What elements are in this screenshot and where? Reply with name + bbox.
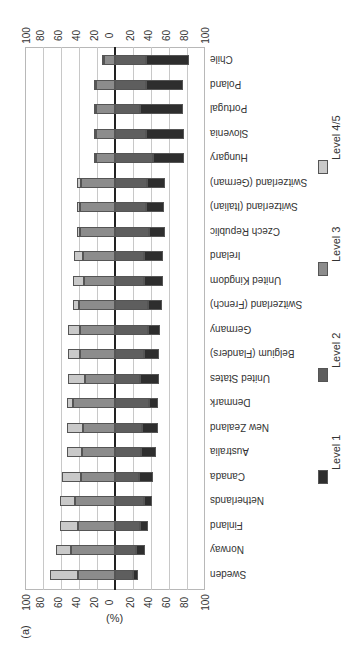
country-label: United States — [210, 373, 330, 384]
level-4-5-segment — [94, 80, 97, 90]
legend-swatch — [318, 160, 328, 174]
axis-tick-label: 60 — [53, 30, 64, 41]
level-4-5-segment — [77, 202, 81, 212]
axis-tick-label: 40 — [71, 30, 82, 41]
level-2-segment — [115, 398, 149, 408]
axis-tick-label: 60 — [161, 597, 172, 608]
level-2-segment — [115, 496, 144, 506]
level-3-segment — [82, 447, 115, 457]
level-4-5-segment — [68, 349, 81, 359]
country-label: Switzerland (German) — [210, 177, 330, 188]
level-3-segment — [96, 129, 115, 139]
axis-tick-label: 60 — [53, 597, 64, 608]
axis-tick-label: 20 — [89, 597, 100, 608]
level-1-segment — [148, 325, 160, 335]
level-2-segment — [115, 202, 146, 212]
country-label: Belgium (Flanders) — [210, 348, 330, 359]
country-label: Australia — [210, 446, 330, 457]
legend-label: Level 4/5 — [330, 115, 342, 160]
level-4-5-segment — [77, 178, 81, 188]
level-4-5-segment — [73, 300, 79, 310]
legend-swatch — [318, 368, 328, 382]
country-label: Czech Republic — [210, 226, 330, 237]
level-4-5-segment — [94, 129, 97, 139]
axis-tick-label: 100 — [199, 27, 210, 44]
level-1-segment — [144, 349, 159, 359]
level-2-segment — [115, 325, 148, 335]
level-2-segment — [115, 349, 144, 359]
axis-tick-label: 80 — [179, 30, 190, 41]
level-1-segment — [147, 178, 165, 188]
level-3-segment — [96, 80, 115, 90]
level-2-segment — [115, 227, 149, 237]
level-2-segment — [115, 251, 144, 261]
legend-swatch — [318, 262, 328, 276]
level-3-segment — [80, 325, 115, 335]
legend-label: Level 1 — [330, 435, 342, 470]
level-1-segment — [146, 80, 183, 90]
country-label: Germany — [210, 324, 330, 335]
country-label: Finland — [210, 520, 330, 531]
axis-tick-label: 20 — [89, 30, 100, 41]
level-3-segment — [83, 423, 115, 433]
level-2-segment — [115, 178, 147, 188]
literacy-levels-chart: 10080604020020406080100 1008060402002040… — [0, 0, 342, 666]
country-label: Slovenia — [210, 128, 330, 139]
level-3-segment — [75, 496, 115, 506]
level-4-5-segment — [62, 472, 81, 482]
level-1-segment — [133, 570, 138, 580]
level-1-segment — [144, 276, 164, 286]
level-1-segment — [148, 300, 161, 310]
level-2-segment — [115, 423, 142, 433]
level-4-5-segment — [67, 447, 82, 457]
level-2-segment — [115, 521, 140, 531]
axis-tick-label: 40 — [71, 597, 82, 608]
level-2-segment — [115, 104, 140, 114]
axis-tick-label: 80 — [35, 597, 46, 608]
axis-tick-label: 40 — [143, 597, 154, 608]
country-label: Netherlands — [210, 495, 330, 506]
level-3-segment — [80, 349, 115, 359]
country-label: Hungary — [210, 152, 330, 163]
level-4-5-segment — [68, 374, 86, 384]
country-label: Canada — [210, 471, 330, 482]
level-1-segment — [140, 521, 148, 531]
level-2-segment — [115, 570, 133, 580]
level-1-segment — [146, 55, 189, 65]
axis-tick-label: 100 — [20, 594, 31, 611]
level-4-5-segment — [77, 227, 81, 237]
level-3-segment — [80, 202, 115, 212]
level-3-segment — [96, 104, 115, 114]
x-axis-unit-label: (%) — [106, 612, 123, 624]
level-2-segment — [115, 55, 146, 65]
level-1-segment — [141, 447, 156, 457]
axis-tick-label: 40 — [143, 30, 154, 41]
level-1-segment — [136, 545, 145, 555]
level-1-segment — [144, 496, 152, 506]
legend-label: Level 3 — [330, 227, 342, 262]
level-4-5-segment — [74, 251, 83, 261]
axis-tick-label: 0 — [104, 600, 115, 606]
axis-tick-label: 80 — [35, 30, 46, 41]
level-4-5-segment — [102, 55, 105, 65]
level-3-segment — [78, 521, 115, 531]
level-4-5-segment — [60, 496, 74, 506]
level-3-segment — [78, 570, 115, 580]
level-2-segment — [115, 80, 146, 90]
axis-tick-label: 20 — [125, 597, 136, 608]
country-label: Poland — [210, 79, 330, 90]
country-label: Sweden — [210, 569, 330, 580]
level-3-segment — [79, 300, 115, 310]
level-1-segment — [142, 423, 158, 433]
level-4-5-segment — [94, 104, 97, 114]
legend-swatch — [318, 470, 328, 484]
country-label: Portugal — [210, 103, 330, 114]
level-2-segment — [115, 300, 148, 310]
level-1-segment — [149, 227, 165, 237]
level-3-segment — [73, 398, 115, 408]
level-2-segment — [115, 153, 153, 163]
level-3-segment — [85, 374, 115, 384]
axis-tick-label: 100 — [20, 27, 31, 44]
level-3-segment — [104, 55, 115, 65]
country-label: Denmark — [210, 397, 330, 408]
